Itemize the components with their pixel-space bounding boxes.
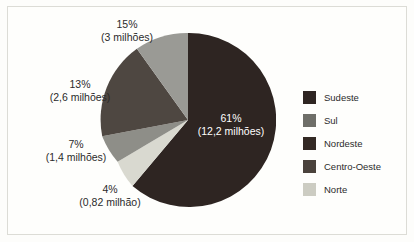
slice-label-sudeste-absolute: (12,2 milhões) [181,125,281,138]
callout-norte-percent: 15% [78,18,176,31]
slice-label-sudeste-percent: 61% [181,112,281,125]
legend-swatch-sudeste [303,91,316,104]
callout-nordeste: 4% (0,82 milhão) [55,183,165,209]
slice-label-sudeste: 61% (12,2 milhões) [181,112,281,138]
callout-centro-oeste-absolute: (2,6 milhões) [28,91,132,104]
legend-label-nordeste: Nordeste [324,138,363,149]
pie-chart-figure: 15% (3 milhões) 13% (2,6 milhões) 7% (1,… [0,0,414,242]
legend-label-centro-oeste: Centro-Oeste [324,161,381,172]
legend-swatch-nordeste [303,137,316,150]
legend-label-sul: Sul [324,115,338,126]
callout-centro-oeste: 13% (2,6 milhões) [28,78,132,104]
legend-swatch-sul [303,114,316,127]
callout-nordeste-absolute: (0,82 milhão) [55,196,165,209]
legend-item-nordeste[interactable]: Nordeste [303,132,381,155]
legend-swatch-centro-oeste [303,160,316,173]
legend-item-norte[interactable]: Norte [303,178,381,201]
callout-norte-absolute: (3 milhões) [78,31,176,44]
callout-sul-percent: 7% [26,138,126,151]
callout-sul-absolute: (1,4 milhões) [26,151,126,164]
callout-centro-oeste-percent: 13% [28,78,132,91]
legend-label-norte: Norte [324,184,347,195]
chart-plot-area: 15% (3 milhões) 13% (2,6 milhões) 7% (1,… [0,0,414,242]
callout-sul: 7% (1,4 milhões) [26,138,126,164]
callout-norte: 15% (3 milhões) [78,18,176,44]
legend-swatch-norte [303,183,316,196]
legend-label-sudeste: Sudeste [324,92,359,103]
legend-item-sul[interactable]: Sul [303,109,381,132]
legend-item-centro-oeste[interactable]: Centro-Oeste [303,155,381,178]
callout-nordeste-percent: 4% [55,183,165,196]
legend-item-sudeste[interactable]: Sudeste [303,86,381,109]
chart-legend: Sudeste Sul Nordeste Centro-Oeste Norte [303,86,381,201]
